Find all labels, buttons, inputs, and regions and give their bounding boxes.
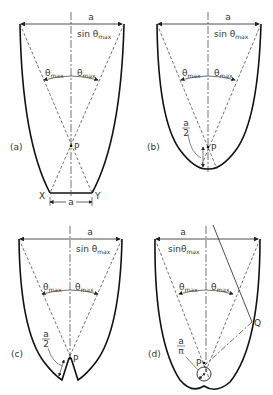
aperture-numerator: a — [225, 12, 231, 22]
theta-max-left: θmax — [182, 68, 201, 79]
point-x-label: X — [39, 191, 45, 201]
extreme-ray-right — [69, 239, 122, 358]
right-reflector — [92, 24, 124, 193]
point-p-label: P — [73, 354, 79, 364]
left-reflector — [20, 24, 50, 193]
reflected-ray — [205, 322, 252, 365]
theta-max-right: θmax — [211, 282, 230, 293]
aperture-denominator: sin θmax — [214, 29, 249, 40]
point-y-label: Y — [94, 191, 101, 201]
concentrator-diagram: a sin θmax θmax θmax P (a) X Y a a sin θ… — [0, 0, 273, 395]
radius-leader — [188, 134, 201, 158]
panel-a-label: (a) — [10, 142, 23, 152]
extreme-ray-left — [20, 24, 92, 193]
reflector — [155, 239, 260, 389]
theta-max-left: θmax — [179, 282, 198, 293]
theta-max-right: θmax — [77, 68, 96, 79]
aperture-denominator: sinθmax — [168, 244, 200, 255]
point-p-label: P — [196, 358, 202, 368]
extreme-ray-right — [50, 24, 124, 193]
radius-denominator: π — [178, 346, 184, 356]
radius-numerator: a — [183, 118, 189, 128]
point-p-label: P — [74, 142, 80, 152]
aperture-numerator: a — [180, 227, 186, 237]
radius-numerator: a — [43, 329, 49, 339]
right-reflector — [71, 239, 122, 380]
panel-b-label: (b) — [147, 142, 160, 152]
radius-denominator: 2 — [183, 128, 189, 138]
aperture-denominator: sin θmax — [77, 29, 112, 40]
aperture-denominator: sin θmax — [76, 244, 111, 255]
point-p — [207, 146, 210, 149]
theta-max-right: θmax — [75, 282, 94, 293]
point-p — [69, 357, 72, 360]
radius-denominator: 2 — [43, 339, 49, 349]
theta-max-right: θmax — [214, 68, 233, 79]
point-p — [70, 145, 73, 148]
extreme-ray-right — [203, 239, 260, 378]
radius-leader — [48, 348, 62, 366]
exit-width-label: a — [68, 197, 74, 207]
theta-max-left: θmax — [43, 282, 62, 293]
point-p — [203, 362, 206, 365]
radius-numerator: a — [178, 336, 184, 346]
panel-c-label: (c) — [11, 349, 23, 359]
panel-d-label: (d) — [148, 349, 161, 359]
aperture-numerator: a — [88, 12, 94, 22]
radius-dimension — [199, 374, 204, 379]
aperture-numerator: a — [87, 227, 93, 237]
point-p-label: P — [211, 143, 217, 153]
panel-a — [20, 12, 124, 206]
point-q-label: Q — [254, 318, 261, 328]
left-reflector — [19, 239, 69, 380]
theta-max-left: θmax — [45, 68, 64, 79]
